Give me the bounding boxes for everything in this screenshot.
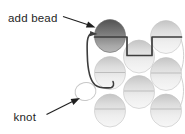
add-bead-arrow-line xyxy=(63,17,88,25)
add-bead-arrowhead-icon xyxy=(86,22,96,28)
bead-middle-2 xyxy=(124,76,155,109)
bead-middle-1 xyxy=(124,40,155,73)
bead-right-3 xyxy=(151,94,182,127)
bead-right-2 xyxy=(151,58,182,91)
bead-new-dark xyxy=(95,20,126,53)
knot-label: knot xyxy=(14,111,37,123)
knot-arrow-line xyxy=(47,101,74,115)
bead-left-3 xyxy=(95,94,126,127)
diagram-canvas: add bead knot xyxy=(0,0,185,134)
bead-stitch-diagram: add bead knot xyxy=(0,0,185,134)
knot-arrowhead-icon xyxy=(71,98,80,105)
add-bead-label: add bead xyxy=(8,12,58,24)
